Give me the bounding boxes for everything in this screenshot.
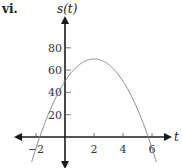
y-tick-label: 40: [48, 86, 62, 99]
panel-label: vi.: [1, 2, 18, 16]
x-axis-title: t: [174, 130, 179, 144]
y-tick-label: 80: [48, 42, 62, 55]
x-tick-label: 4: [120, 143, 127, 156]
x-tick-label: 2: [91, 143, 98, 156]
y-axis-title: s(t): [57, 2, 78, 16]
y-tick-label: 60: [48, 64, 62, 77]
chart: vi. s(t) t −224620406080: [0, 0, 182, 168]
